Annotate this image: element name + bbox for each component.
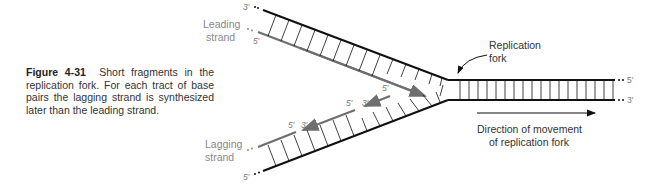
replication-fork-label-2: fork	[489, 52, 507, 64]
right-5prime-label: 5′	[627, 75, 634, 85]
okazaki-fragment-2	[303, 110, 355, 130]
bottom-5prime-label: 5′	[243, 172, 250, 182]
lagging-strand-label-2: strand	[205, 151, 234, 163]
fork-pointer-arrow	[458, 55, 487, 73]
fragment2-3prime: 3′	[362, 98, 369, 108]
top-arm-base-pairs	[268, 15, 442, 86]
direction-label-2: of replication fork	[489, 136, 570, 148]
parent-duplex	[448, 79, 624, 101]
fragment1-5prime: 5′	[288, 120, 295, 130]
okazaki-fragment-1	[258, 132, 296, 147]
leading-strand-arrow	[300, 48, 425, 96]
bottom-parent-strand	[263, 100, 448, 171]
leading-5prime-label: 5′	[253, 36, 260, 46]
leading-strand-label-1: Leading	[203, 18, 241, 30]
okazaki-fragment-3	[365, 96, 390, 106]
fragment3-5prime: 5′	[382, 83, 389, 93]
direction-label-1: Direction of movement	[477, 123, 582, 135]
leading-strand-label-2: strand	[206, 31, 235, 43]
top-3prime-label: 3′	[243, 2, 250, 12]
replication-fork-label-1: Replication	[489, 39, 541, 51]
lagging-strand-label-1: Lagging	[205, 138, 243, 150]
replication-fork-diagram: Leading strand Lagging strand Replicatio…	[0, 0, 656, 188]
right-3prime-label: 3′	[627, 95, 634, 105]
top-arm	[247, 6, 448, 96]
fragment2-5prime: 5′	[346, 98, 353, 108]
fragment1-3prime: 3′	[301, 120, 308, 130]
